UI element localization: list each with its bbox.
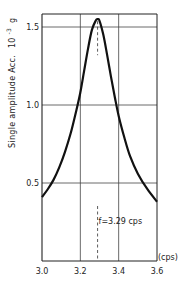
y-axis-unit-suffix: g — [8, 18, 17, 23]
y-axis-label-text: Single amplitude Acc. — [8, 55, 17, 148]
y-axis-unit: 10 — [8, 37, 17, 48]
chart: 3.03.23.43.6 0.51.01.5 (cps) f=3.29 cps … — [0, 0, 186, 282]
y-tick-label: 1.5 — [26, 23, 39, 32]
x-tick-label: 3.0 — [36, 267, 49, 276]
y-axis-label: Single amplitude Acc. 10 -3 g — [4, 18, 17, 148]
x-tick-labels: 3.03.23.43.6 — [36, 267, 164, 276]
x-tick-label: 3.6 — [151, 267, 164, 276]
resonance-annotation: f=3.29 cps — [99, 217, 143, 226]
x-tick-label: 3.4 — [112, 267, 125, 276]
y-axis-unit-exp: -3 — [5, 28, 12, 35]
x-axis-label: (cps) — [158, 253, 178, 262]
y-tick-label: 1.0 — [26, 101, 39, 110]
y-tick-label: 0.5 — [26, 179, 39, 188]
x-tick-label: 3.2 — [74, 267, 87, 276]
y-tick-labels: 0.51.01.5 — [26, 23, 39, 188]
response-curve — [42, 19, 157, 202]
